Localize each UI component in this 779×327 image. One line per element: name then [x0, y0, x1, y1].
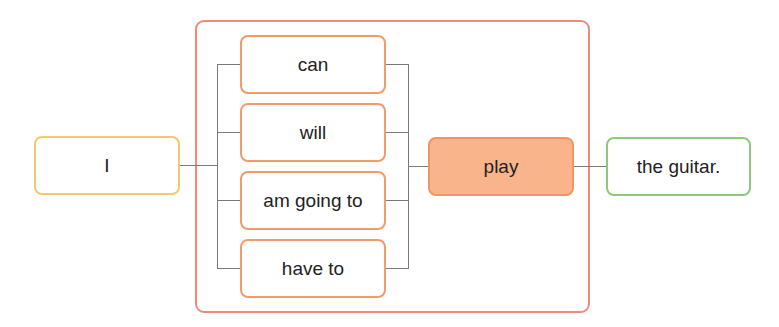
modal-item-will: will [240, 103, 386, 162]
modal-item-label: will [300, 122, 326, 144]
left-stub-2 [217, 132, 241, 133]
right-stub-4 [386, 268, 409, 269]
modal-item-label: am going to [263, 190, 362, 212]
connector-object [574, 166, 607, 167]
right-stub-1 [386, 64, 409, 65]
object-label: the guitar. [637, 156, 720, 178]
verb-label: play [484, 156, 519, 178]
modal-item-am-going-to: am going to [240, 171, 386, 230]
verb-box: play [428, 137, 574, 196]
left-stub-3 [217, 200, 241, 201]
right-stub-3 [386, 200, 409, 201]
left-stub-1 [217, 64, 241, 65]
modal-item-label: can [298, 54, 329, 76]
modal-item-can: can [240, 35, 386, 94]
right-stub-2 [386, 132, 409, 133]
object-box: the guitar. [606, 137, 751, 196]
subject-box: I [34, 136, 180, 195]
left-stub-4 [217, 268, 241, 269]
modal-item-label: have to [282, 258, 344, 280]
connector-subject [180, 165, 218, 166]
left-bracket [217, 64, 218, 269]
connector-verb [408, 166, 429, 167]
subject-label: I [104, 155, 109, 177]
modal-item-have-to: have to [240, 239, 386, 298]
